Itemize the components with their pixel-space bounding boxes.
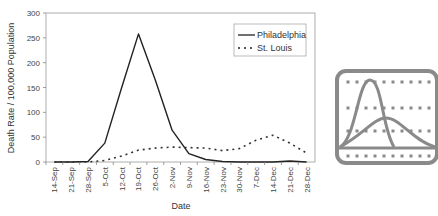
x-tick-label: 14-Dec: [269, 167, 278, 193]
x-tick-label: 26-Oct: [151, 166, 160, 191]
x-tick-label: 9-Nov: [185, 167, 194, 188]
y-tick-label: 200: [27, 59, 41, 68]
x-tick-label: 19-Oct: [134, 166, 143, 191]
chart: 050100150200250300 14-Sep21-Sep28-Sep5-O…: [0, 0, 438, 216]
y-tick-label: 300: [27, 9, 41, 18]
y-tick-label: 150: [27, 84, 41, 93]
epidemic-curves-icon: [337, 71, 437, 163]
x-tick-label: 16-Nov: [202, 167, 211, 193]
x-tick-label: 2-Nov: [168, 167, 177, 188]
x-tick-label: 21-Sep: [67, 166, 76, 192]
x-tick-label: 12-Oct: [118, 166, 127, 191]
legend-label-philadelphia: Philadelphia: [257, 30, 306, 40]
y-tick-label: 100: [27, 108, 41, 117]
x-tick-label: 23-Nov: [219, 167, 228, 193]
legend-label-st-louis: St. Louis: [257, 43, 293, 53]
x-axis-title: Date: [171, 201, 190, 211]
x-axis: 14-Sep21-Sep28-Sep5-Oct12-Oct19-Oct26-Oc…: [46, 162, 312, 193]
y-tick-label: 50: [31, 133, 40, 142]
x-tick-label: 28-Dec: [303, 167, 312, 193]
x-tick-label: 7-Dec: [252, 167, 261, 188]
x-tick-label: 5-Oct: [101, 166, 110, 186]
y-tick-label: 250: [27, 34, 41, 43]
x-tick-label: 14-Sep: [50, 166, 59, 192]
legend: Philadelphia St. Louis: [234, 24, 306, 56]
series-line-st-louis: [54, 135, 306, 162]
x-tick-label: 21-Dec: [286, 167, 295, 193]
y-axis-title: Death Rate / 100,000 Population: [6, 23, 16, 154]
x-tick-label: 28-Sep: [84, 166, 93, 192]
y-axis: 050100150200250300: [27, 9, 46, 167]
x-tick-label: 30-Nov: [235, 167, 244, 193]
y-tick-label: 0: [36, 158, 41, 167]
